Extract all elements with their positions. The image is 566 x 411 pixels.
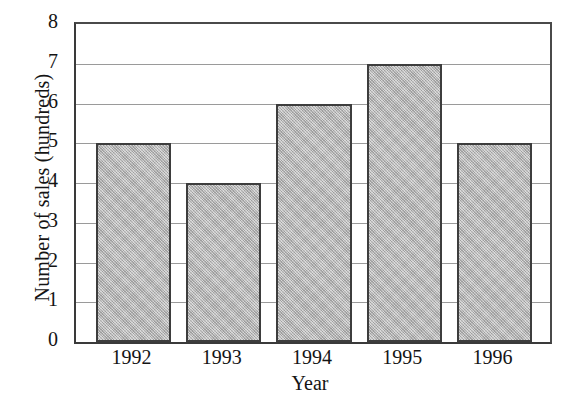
bar-1994[interactable] [276, 104, 351, 343]
bars-layer [76, 24, 550, 342]
y-tick-label: 5 [18, 130, 58, 150]
x-tick-label: 1992 [87, 346, 177, 368]
x-tick-label: 1993 [177, 346, 267, 368]
x-axis-title: Year [292, 372, 329, 395]
x-axis-title-wrap: Year [0, 372, 566, 395]
y-tick-label: 1 [18, 289, 58, 309]
y-tick-label: 2 [18, 250, 58, 270]
y-tick-label: 4 [18, 170, 58, 190]
y-axis-tick-labels: 8 7 6 5 4 3 2 1 0 [0, 0, 68, 411]
bar-1993[interactable] [186, 183, 261, 342]
y-tick-label: 7 [18, 51, 58, 71]
bar-1995[interactable] [367, 64, 442, 342]
x-axis-tick-labels: 1992 1993 1994 1995 1996 [74, 346, 548, 374]
y-tick-label: 3 [18, 210, 58, 230]
x-tick-label: 1995 [357, 346, 447, 368]
x-tick-label: 1996 [447, 346, 537, 368]
bar-1992[interactable] [96, 143, 171, 342]
x-tick-label: 1994 [267, 346, 357, 368]
plot-area [74, 22, 552, 344]
y-tick-label: 6 [18, 91, 58, 111]
bar-1996[interactable] [457, 143, 532, 342]
bar-chart: Number of sales (hundreds) 8 7 6 5 4 3 2… [0, 0, 566, 411]
y-tick-label: 8 [18, 11, 58, 31]
y-tick-label: 0 [18, 329, 58, 349]
